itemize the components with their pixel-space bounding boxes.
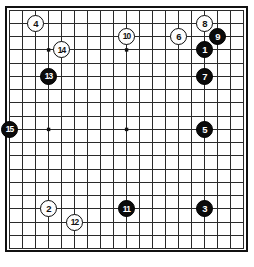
stone-move-number: 4 [33, 18, 38, 28]
stone-move-12[interactable]: 12 [66, 214, 83, 231]
stone-move-7[interactable]: 7 [196, 68, 213, 85]
stone-move-number: 11 [123, 204, 130, 212]
stone-move-number: 1 [202, 45, 207, 55]
stone-move-number: 12 [71, 218, 79, 226]
stone-move-13[interactable]: 13 [40, 68, 57, 85]
stone-move-number: 9 [215, 32, 220, 42]
stone-move-4[interactable]: 4 [27, 15, 44, 32]
stone-move-5[interactable]: 5 [196, 121, 213, 138]
stone-move-number: 2 [46, 204, 51, 214]
go-board-diagram: 123456789101112131415 [0, 0, 254, 267]
stone-move-number: 8 [202, 18, 207, 28]
stone-move-number: 6 [176, 32, 181, 42]
stone-move-number: 3 [202, 204, 207, 214]
stone-move-8[interactable]: 8 [196, 15, 213, 32]
stone-move-15[interactable]: 15 [1, 121, 18, 138]
stone-move-number: 14 [58, 46, 66, 54]
stone-move-number: 13 [45, 72, 53, 80]
stone-move-number: 10 [123, 32, 131, 40]
stone-move-number: 15 [6, 125, 14, 133]
stone-move-number: 7 [202, 71, 207, 81]
stone-move-number: 5 [202, 124, 207, 134]
